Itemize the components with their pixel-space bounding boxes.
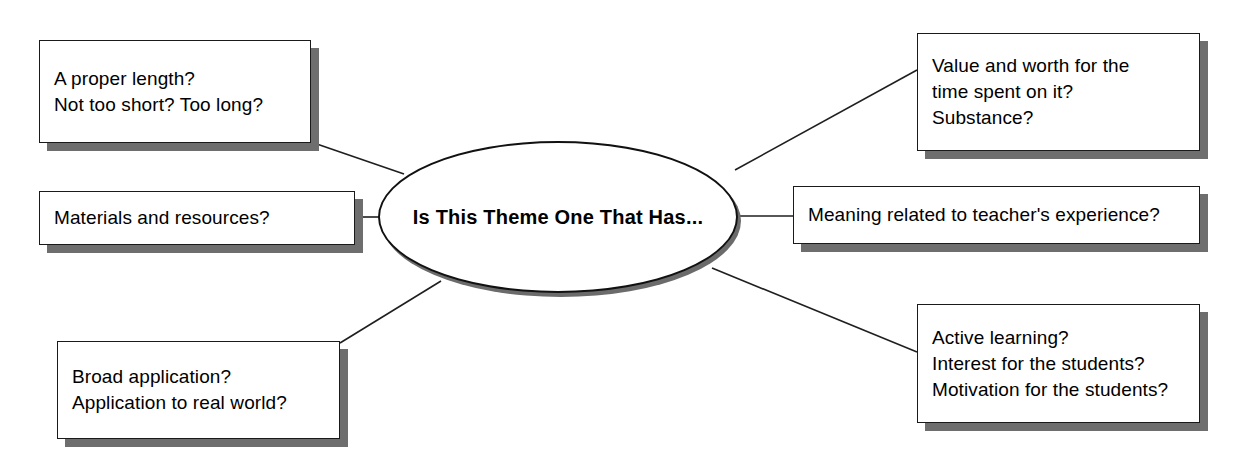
node-proper-length-label: A proper length? Not too short? Too long… (40, 66, 310, 118)
node-materials-resources[interactable]: Materials and resources? (39, 191, 355, 245)
node-active-learning[interactable]: Active learning? Interest for the studen… (917, 304, 1200, 423)
node-broad-application[interactable]: Broad application? Application to real w… (57, 341, 340, 439)
node-proper-length[interactable]: A proper length? Not too short? Too long… (39, 40, 311, 143)
node-broad-application-label: Broad application? Application to real w… (58, 364, 339, 416)
connector-broad-to-center (340, 281, 441, 343)
node-materials-resources-label: Materials and resources? (40, 205, 354, 231)
center-node-ellipse[interactable]: Is This Theme One That Has... (378, 141, 738, 293)
node-meaning-teacher-experience[interactable]: Meaning related to teacher's experience? (793, 186, 1200, 244)
node-value-and-worth[interactable]: Value and worth for the time spent on it… (917, 33, 1200, 151)
center-node-label: Is This Theme One That Has... (413, 206, 703, 229)
connector-center-to-value (735, 70, 917, 170)
diagram-canvas: A proper length? Not too short? Too long… (0, 0, 1245, 473)
connector-center-to-active (712, 268, 917, 352)
node-active-learning-label: Active learning? Interest for the studen… (918, 325, 1199, 403)
connector-length-to-center (311, 142, 404, 174)
node-meaning-teacher-experience-label: Meaning related to teacher's experience? (794, 202, 1199, 228)
node-value-and-worth-label: Value and worth for the time spent on it… (918, 53, 1199, 131)
